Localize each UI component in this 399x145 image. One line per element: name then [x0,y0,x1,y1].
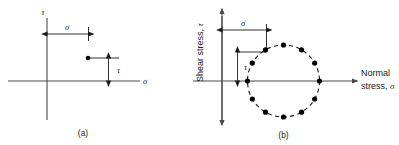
panel-b-data-point [281,42,286,47]
panel-b-data-point [312,60,317,65]
panel-b-data-point [312,96,317,101]
panel-a-sigma-axis-label: σ [143,76,148,86]
panel-b-data-point [299,47,304,52]
panel-b-shear-axis-label-symbol: τ [195,22,205,26]
panel-b-tau-dimension-label: τ [244,62,248,72]
panel-b-data-point [263,110,268,115]
panel-b-shear-axis-label-text: Shear stress, [195,26,205,82]
panel-b-data-point [245,78,250,83]
panel-b-data-point [317,78,322,83]
panel-a-caption: (a) [78,128,89,138]
panel-a: τ σ σ τ (a) [8,7,148,138]
panel-b: Shear stress, τ Normal stress, σ σ τ [193,14,395,140]
panel-b-data-point [250,96,255,101]
panel-b-data-point [250,60,255,65]
panel-b-normal-axis-label-line2: stress, σ [361,81,395,91]
panel-b-caption: (b) [278,130,289,140]
panel-b-data-point [281,114,286,119]
panel-b-normal-axis-label-line1: Normal [361,68,390,78]
panel-b-normal-axis-label-line2-text: stress, [361,81,390,91]
panel-a-tau-dimension-label: τ [117,65,121,75]
panel-b-sigma-dimension-label: σ [241,18,246,28]
panel-b-normal-axis-label-line2-symbol: σ [390,81,395,91]
panel-a-tau-axis-label: τ [41,7,45,17]
mohr-circle-figure: τ σ σ τ (a) Shear stress, τ [0,0,399,145]
panel-b-shear-axis-label: Shear stress, τ [195,22,205,82]
panel-a-sigma-dimension-label: σ [65,22,70,32]
panel-b-data-point [299,110,304,115]
panel-b-data-point [263,47,268,52]
figure-container: τ σ σ τ (a) Shear stress, τ [0,0,399,145]
